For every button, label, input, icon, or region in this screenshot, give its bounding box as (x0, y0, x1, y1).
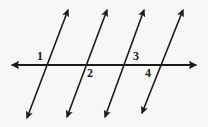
parallel-lines-group (27, 10, 183, 118)
geometry-figure: 1 2 3 4 (0, 0, 208, 127)
parallel-line-4 (142, 10, 183, 113)
parallel-line-1 (27, 10, 68, 118)
angle-label-2: 2 (87, 67, 93, 79)
angle-label-1: 1 (37, 50, 43, 62)
figure-canvas (0, 0, 208, 127)
parallel-line-2 (67, 10, 107, 117)
angle-label-3: 3 (133, 50, 139, 62)
angle-label-4: 4 (145, 67, 151, 79)
parallel-line-3 (105, 10, 144, 117)
